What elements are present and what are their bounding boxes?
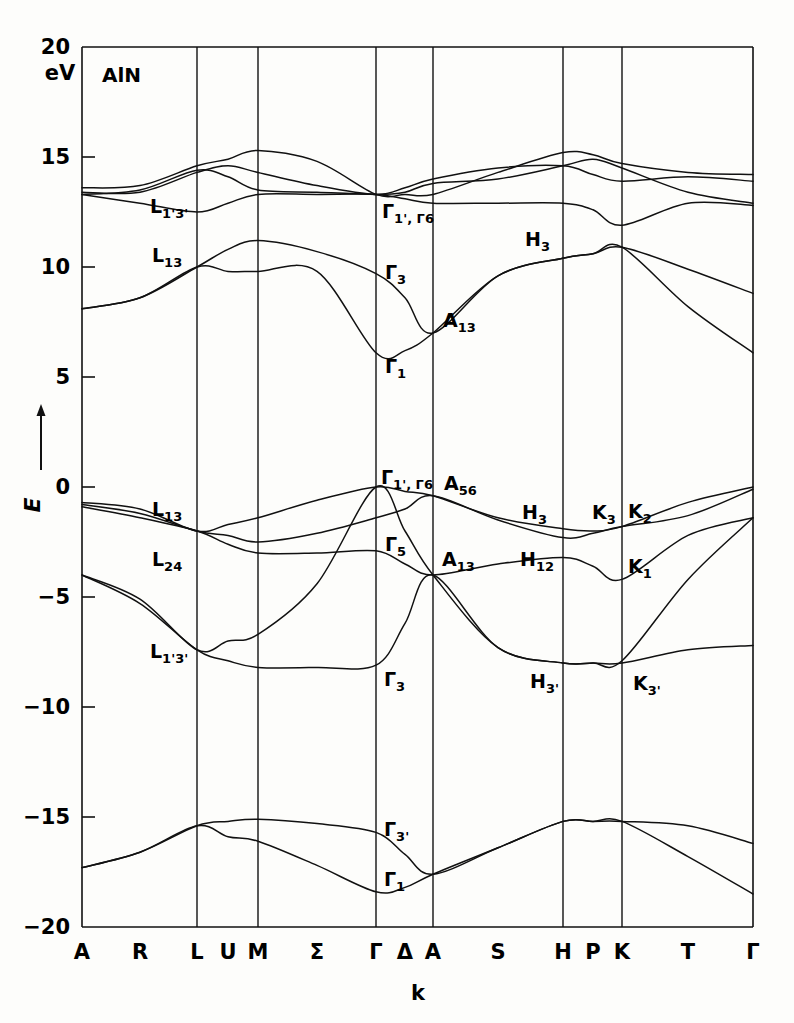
- x-tick-label-7: Δ: [397, 940, 414, 964]
- y-tick-label--5: −5: [38, 585, 70, 609]
- x-tick-label-1: R: [132, 940, 148, 964]
- y-axis-title: E: [20, 497, 45, 512]
- y-tick-label-20: 20: [41, 35, 70, 59]
- y-tick-label--10: −10: [23, 695, 70, 719]
- band-structure-figure: 20151050−5−10−15−20 ARLUMΣΓΔASHPKTΓ L1'3…: [0, 0, 794, 1023]
- x-axis-title: k: [411, 981, 426, 1005]
- x-tick-label-2: L: [190, 940, 203, 964]
- x-tick-label-8: A: [425, 940, 442, 964]
- energy-unit-label: eV: [45, 61, 76, 85]
- y-tick-label--15: −15: [23, 805, 70, 829]
- x-tick-label-3: U: [219, 940, 236, 964]
- x-tick-label-11: P: [585, 940, 600, 964]
- band-structure-plot: 20151050−5−10−15−20 ARLUMΣΓΔASHPKTΓ L1'3…: [0, 0, 794, 1023]
- x-tick-label-4: M: [248, 940, 269, 964]
- y-tick-label-5: 5: [55, 365, 70, 389]
- x-tick-label-13: T: [681, 940, 696, 964]
- x-tick-label-12: K: [614, 940, 631, 964]
- x-tick-label-5: Σ: [310, 940, 324, 964]
- x-tick-label-9: S: [490, 940, 505, 964]
- x-tick-label-10: H: [554, 940, 572, 964]
- y-tick-label-15: 15: [41, 145, 70, 169]
- x-tick-label-14: Γ: [746, 940, 759, 964]
- x-tick-label-6: Γ: [369, 940, 382, 964]
- y-tick-label-10: 10: [41, 255, 70, 279]
- y-tick-label--20: −20: [23, 915, 70, 939]
- y-tick-label-0: 0: [55, 475, 70, 499]
- x-tick-label-0: A: [74, 940, 91, 964]
- material-label: AlN: [102, 63, 141, 87]
